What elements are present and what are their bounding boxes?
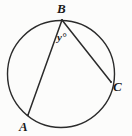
point-label-b: B xyxy=(57,2,66,15)
angle-label-y: y° xyxy=(57,32,66,43)
point-label-c: C xyxy=(113,80,122,93)
chord-bc xyxy=(62,20,111,82)
vertex-point-c xyxy=(110,81,112,83)
geometry-diagram: B A C y° xyxy=(0,0,132,136)
point-label-a: A xyxy=(19,120,28,133)
circle-diagram-svg xyxy=(0,0,132,136)
vertex-point-a xyxy=(27,114,29,116)
vertex-point-b xyxy=(61,19,63,21)
